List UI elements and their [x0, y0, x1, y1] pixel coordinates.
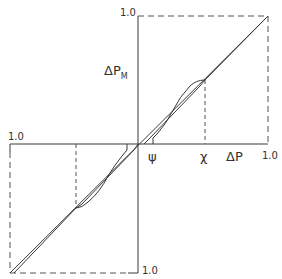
top-one-label: 1.0 [120, 8, 136, 18]
vertical-axis-label: ΔPM [104, 64, 128, 77]
vertical-axis-symbol: ΔP [104, 63, 121, 78]
horizontal-axis-label: ΔP [226, 150, 243, 163]
psi-label: ψ [148, 150, 157, 163]
offset-line-lower [14, 208, 76, 273]
diagram-canvas: 1.0 1.0 1.0 1.0 ΔPM ψ χ ΔP [0, 0, 282, 279]
right-one-label: 1.0 [262, 151, 278, 161]
transfer-curve-plot [0, 0, 282, 279]
transfer-curve-positive [144, 80, 205, 144]
left-one-label: 1.0 [8, 132, 24, 142]
chi-label: χ [200, 150, 208, 163]
bottom-one-label: 1.0 [142, 266, 158, 276]
offset-line-upper [205, 16, 268, 80]
vertical-axis-subscript: M [121, 72, 128, 81]
